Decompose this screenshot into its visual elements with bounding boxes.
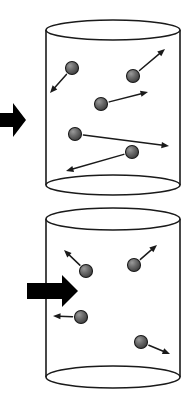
canvas-background [0,0,190,406]
figure-container [0,0,190,406]
gas-particle-b2 [128,259,141,272]
gas-particle-t2 [127,70,140,83]
top-cylinder-bottom-ellipse [46,175,180,195]
gas-particle-t1 [66,62,79,75]
bottom-cylinder-top-ellipse [46,208,180,230]
gas-particle-b4 [135,336,148,349]
gas-particle-t3 [95,98,108,111]
top-cylinder-top-ellipse [46,20,180,40]
bottom-cylinder-bottom-ellipse [46,366,180,388]
gas-particle-t4 [69,128,82,141]
gas-particle-b3 [75,311,88,324]
gas-particle-b1 [80,265,93,278]
gas-particle-t5 [126,146,139,159]
particle-cylinder-diagram [0,0,190,406]
